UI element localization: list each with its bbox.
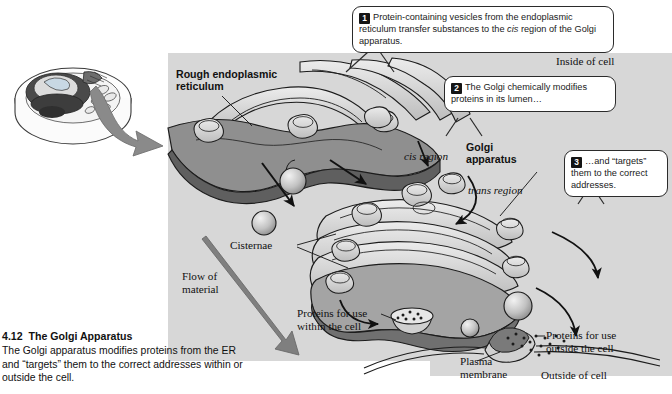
figure-canvas: 1Protein-containing vesicles from the en… <box>0 0 672 394</box>
label-plasma-membrane: Plasma membrane <box>460 355 507 381</box>
callout-step-1: 1Protein-containing vesicles from the en… <box>352 6 614 53</box>
label-rough-er: Rough endoplasmic reticulum <box>176 68 277 93</box>
callout-3-text: …and “targets” them to the correct addre… <box>571 156 648 190</box>
label-outside-of-cell: Outside of cell <box>541 369 607 382</box>
figure-number: 4.12 <box>2 330 23 342</box>
label-trans-region: trans region <box>468 184 523 197</box>
label-cisternae: Cisternae <box>230 239 272 252</box>
callout-1-badge: 1 <box>359 13 370 24</box>
callout-1-italic: cis <box>507 24 518 34</box>
callout-3-badge: 3 <box>571 157 582 168</box>
label-cis-region: cis region <box>404 150 448 163</box>
figure-caption-body: The Golgi apparatus modifies proteins fr… <box>2 344 252 384</box>
callout-2-text: The Golgi chemically modifies proteins i… <box>451 82 587 104</box>
cell-inset-icon <box>15 68 163 156</box>
label-golgi-apparatus: Golgi apparatus <box>466 141 517 166</box>
label-proteins-outside-cell: Proteins for use outside the cell <box>546 329 616 355</box>
label-flow-of-material: Flow of material <box>182 270 219 296</box>
callout-step-2: 2The Golgi chemically modifies proteins … <box>444 76 616 112</box>
label-inside-of-cell: Inside of cell <box>556 55 614 68</box>
figure-title: The Golgi Apparatus <box>29 330 133 342</box>
callout-step-3: 3…and “targets” them to the correct addr… <box>564 150 668 197</box>
callout-2-badge: 2 <box>451 83 462 94</box>
label-proteins-within-cell: Proteins for use within the cell <box>297 307 367 333</box>
figure-caption: 4.12 The Golgi Apparatus The Golgi appar… <box>2 330 252 385</box>
